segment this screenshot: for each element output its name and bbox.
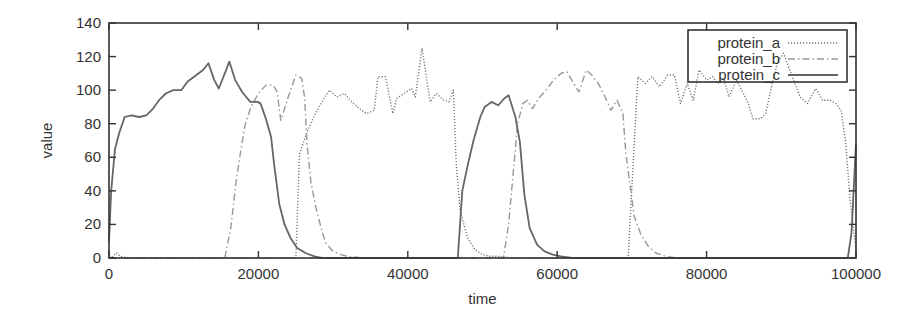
legend-label-protein-c: protein_c	[718, 66, 780, 83]
y-tick-label: 40	[84, 182, 101, 199]
line-chart: 020000400006000080000100000 020406080100…	[0, 0, 922, 319]
x-tick-label: 80000	[686, 265, 728, 282]
x-tick-label: 0	[105, 265, 113, 282]
y-tick-label: 100	[76, 81, 101, 98]
x-tick-label: 40000	[387, 265, 429, 282]
y-tick-label: 60	[84, 148, 101, 165]
y-tick-label: 120	[76, 48, 101, 65]
legend: protein_aprotein_bprotein_c	[688, 30, 847, 83]
y-tick-label: 20	[84, 215, 101, 232]
x-axis-tick-labels: 020000400006000080000100000	[105, 265, 881, 282]
series-protein-c	[109, 62, 856, 258]
legend-label-protein-b: protein_b	[717, 50, 780, 67]
y-axis-label: value	[38, 123, 55, 159]
x-axis-label: time	[468, 290, 496, 307]
x-tick-label: 100000	[831, 265, 881, 282]
x-tick-label: 20000	[238, 265, 280, 282]
legend-label-protein-a: protein_a	[717, 34, 780, 51]
series-protein-b	[109, 70, 856, 258]
y-tick-label: 140	[76, 14, 101, 31]
y-axis-tick-labels: 020406080100120140	[76, 14, 101, 266]
x-tick-label: 60000	[536, 265, 578, 282]
y-tick-label: 0	[93, 249, 101, 266]
y-tick-label: 80	[84, 115, 101, 132]
